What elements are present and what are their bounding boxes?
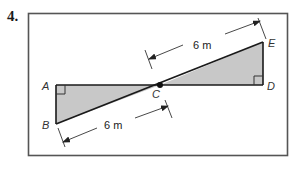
dimension-arrow-bc-left [63,128,97,142]
dimension-label-bc: 6 m [104,119,122,131]
point-label-e: E [268,37,276,49]
point-label-a: A [41,80,49,92]
dimension-arrow-ce-left [149,45,183,59]
dimension-arrow-bc-right [135,106,168,118]
geometry-diagram: 6 m 6 m A B C D E [0,0,302,175]
extension-line-c-upper [145,50,152,69]
point-label-b: B [42,119,49,131]
extension-line-c-lower [165,100,172,118]
point-label-d: D [267,80,275,92]
dimension-label-ce: 6 m [193,39,211,51]
extension-line-b [58,128,65,147]
dimension-arrow-ce-right [225,21,260,34]
point-label-c: C [152,88,160,100]
